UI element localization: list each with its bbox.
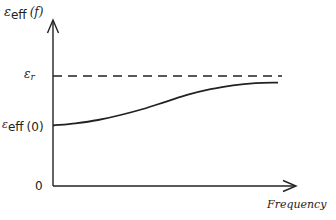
y-axis-label: εeff(f) [4,4,44,22]
y-tick-epsilon-eff-0: εeff(0) [2,118,44,134]
frequency-dispersion-chart: εeff(f) εr εeff(0) 0 Frequency [0,0,336,220]
epsilon-eff-curve [53,83,278,126]
y-tick-zero: 0 [35,179,43,193]
x-axis-label: Frequency [266,198,327,211]
y-tick-epsilon-r: εr [24,67,35,82]
